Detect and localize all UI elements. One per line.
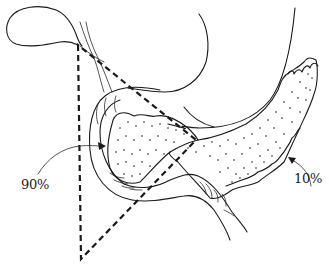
label-10-percent: 10% (294, 171, 322, 186)
stomach-inner-curve (128, 14, 208, 92)
arrow-90-shaft (38, 146, 102, 174)
arrow-10-head (288, 157, 296, 164)
diagram-canvas: 90% 10% (0, 0, 329, 266)
anatomy-illustration (0, 0, 329, 266)
duodenum-inner (100, 100, 247, 232)
pancreas-stipple (115, 73, 313, 183)
gallbladder (7, 7, 82, 46)
label-90-percent: 90% (21, 177, 49, 192)
gastrinoma-triangle (78, 45, 196, 259)
pancreas-lower-lobulations (226, 128, 300, 186)
stomach-lower-curve (184, 107, 214, 127)
pancreas-head (108, 113, 198, 184)
pancreas-tail-lobulations (288, 63, 318, 74)
duodenum-outer (90, 88, 230, 240)
common-bile-duct (86, 22, 112, 92)
